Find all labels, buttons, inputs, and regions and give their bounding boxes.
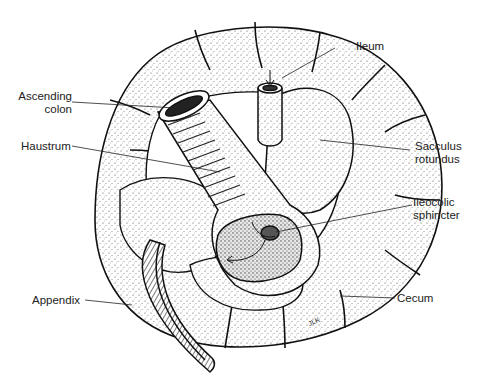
label-ileocolic-line1: Ileocolic [413,196,460,209]
label-cecum: Cecum [397,292,433,305]
label-sacculus-line1: Sacculus [415,140,462,153]
label-appendix: Appendix [32,294,80,307]
label-ascending-colon-line2: colon [8,103,72,116]
label-ileocolic-sphincter: Ileocolic sphincter [413,196,460,222]
label-ascending-colon: Ascending colon [8,90,72,116]
label-ileocolic-line2: sphincter [413,209,460,222]
anatomy-illustration [0,0,482,388]
label-ileum: Ileum [356,40,384,53]
label-sacculus-rotundus: Sacculus rotundus [415,140,462,166]
label-sacculus-line2: rotundus [415,153,462,166]
label-haustrum: Haustrum [21,140,71,153]
label-ascending-colon-line1: Ascending [8,90,72,103]
